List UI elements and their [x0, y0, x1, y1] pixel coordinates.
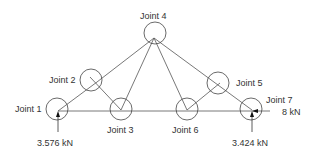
- member-4-5: [154, 38, 252, 110]
- member-2-3: [90, 77, 121, 110]
- joint-6-circle: [176, 98, 198, 120]
- member-5-6: [187, 83, 220, 110]
- joint-7-label: Joint 7: [266, 95, 293, 105]
- force-joint7-left-arrowhead: [252, 109, 258, 113]
- joint-2-label: Joint 2: [49, 75, 76, 85]
- force-joint7-label: 3.424 kN: [232, 138, 268, 148]
- joint-6-label: Joint 6: [172, 125, 199, 135]
- joint-1-label: Joint 1: [15, 104, 42, 114]
- joint-5-label: Joint 5: [236, 78, 263, 88]
- member-2-4: [97, 38, 154, 82]
- joint-4-label: Joint 4: [140, 11, 167, 21]
- force-8kn-label: 8 kN: [282, 107, 301, 117]
- force-joint7-up-arrowhead: [250, 111, 254, 117]
- truss-diagram: Joint 4 Joint 2 Joint 5 Joint 1 Joint 3 …: [0, 0, 315, 154]
- joint-3-label: Joint 3: [107, 125, 134, 135]
- force-joint1-up-arrowhead: [56, 111, 60, 117]
- force-joint1-label: 3.576 kN: [37, 138, 73, 148]
- member-1-2: [58, 82, 97, 111]
- joint-2-circle: [80, 69, 102, 91]
- joint-5-circle: [207, 72, 229, 94]
- joint-3-circle: [110, 98, 132, 120]
